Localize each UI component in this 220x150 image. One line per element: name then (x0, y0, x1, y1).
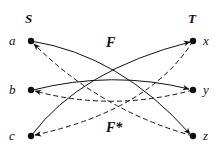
point-label-a: a (9, 33, 16, 48)
point-label-z: z (202, 128, 208, 143)
arrow-fstar-y-to-b (35, 90, 193, 101)
point-y (190, 87, 196, 93)
set-label-t: T (188, 11, 197, 26)
point-z (190, 133, 196, 139)
arrow-f-b-to-y (33, 80, 189, 90)
point-a (28, 38, 34, 44)
set-label-s: S (25, 11, 32, 26)
point-c (28, 133, 34, 139)
bijection-diagram: S T F F* a b c x y z (0, 0, 220, 150)
point-label-c: c (9, 128, 15, 143)
point-label-y: y (201, 82, 209, 97)
point-b (28, 87, 34, 93)
point-label-b: b (9, 82, 16, 97)
map-label-f-star: F* (105, 120, 123, 135)
map-label-f: F (105, 35, 116, 50)
point-x (190, 38, 196, 44)
point-label-x: x (202, 33, 209, 48)
